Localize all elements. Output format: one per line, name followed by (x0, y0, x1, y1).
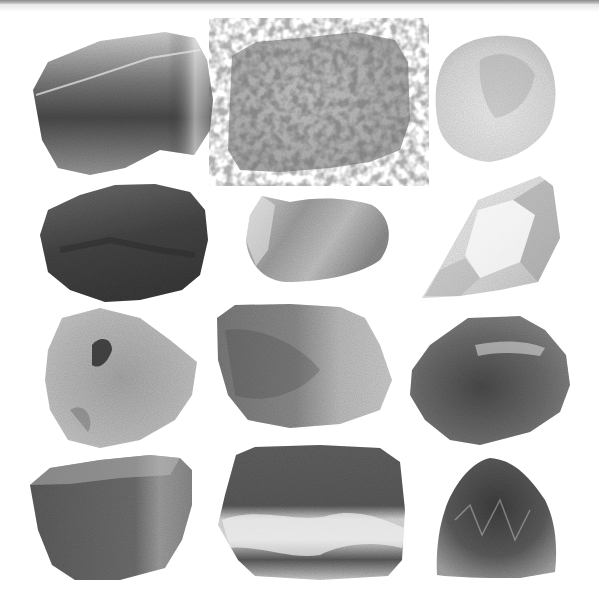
specimen-quartz-crystal (422, 176, 560, 298)
specimen-mottled-block (217, 304, 392, 428)
specimen-dark-veined-rock (410, 316, 570, 445)
specimen-dark-cleaved-mineral (33, 32, 213, 175)
specimen-grid (0, 0, 599, 609)
specimen-dark-rough-rock (40, 184, 208, 302)
specimen-layered-pale-mineral (45, 308, 197, 448)
specimen-angular-slab (30, 455, 192, 580)
specimen-pale-rounded-mineral (436, 36, 556, 162)
specimen-speckled-granite (228, 32, 410, 172)
specimen-banded-marble (218, 445, 405, 580)
specimen-smooth-pebble (246, 196, 389, 282)
specimen-crystalline-cluster (437, 458, 556, 578)
